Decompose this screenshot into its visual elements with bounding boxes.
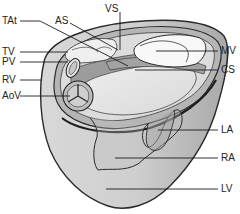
label-rv: RV [2,74,16,85]
label-as: AS [55,15,69,26]
label-lv: LV [221,183,233,194]
label-pv: PV [2,56,16,67]
label-la: LA [221,124,234,135]
label-cs: CS [221,64,235,75]
label-ra: RA [221,152,235,163]
heart-diagram: TAt AS VS TV PV RV AoV MV CS LA RA LV [0,0,240,214]
label-tat: TAt [2,15,17,26]
label-mv: MV [221,45,236,56]
label-aov: AoV [2,90,21,101]
label-vs: VS [105,3,119,14]
